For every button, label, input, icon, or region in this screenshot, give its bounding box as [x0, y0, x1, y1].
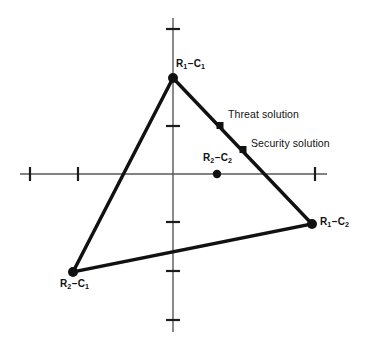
diagram-canvas: R1–C1 R1–C2 R2–C1 R2–C2 Threat solution …	[0, 0, 366, 352]
label-r1-c2: R1–C2	[320, 216, 349, 227]
label-r2-c2-c: C	[221, 152, 228, 163]
solution-markers	[213, 122, 247, 178]
vertex-dot-r1-c2	[307, 219, 317, 229]
label-security-solution: Security solution	[251, 138, 330, 150]
label-r1-c2-r-sub: 1	[327, 220, 331, 229]
label-r1-c2-c: C	[338, 216, 345, 227]
threat-solution-marker	[217, 122, 224, 129]
label-r2-c2: R2–C2	[203, 152, 232, 163]
label-r1-c1: R1–C1	[176, 58, 205, 69]
label-r1-c1-c-sub: 1	[201, 62, 205, 71]
vertex-dot-r1-c1	[168, 73, 178, 83]
point-dot-r2-c2	[213, 170, 221, 178]
vertex-dot-r2-c1	[68, 267, 78, 277]
label-r2-c2-r-sub: 2	[210, 156, 214, 165]
label-r2-c1-r-sub: 2	[67, 282, 71, 291]
label-r2-c1-c: C	[78, 278, 85, 289]
label-r2-c1: R2–C1	[60, 278, 89, 289]
label-r2-c1-c-sub: 1	[85, 282, 89, 291]
label-r1-c1-c: C	[194, 58, 201, 69]
diagram-svg	[0, 0, 366, 352]
label-threat-solution: Threat solution	[228, 109, 299, 121]
security-solution-marker	[240, 146, 247, 153]
label-r1-c2-c-sub: 2	[345, 220, 349, 229]
label-r2-c2-c-sub: 2	[228, 156, 232, 165]
label-r1-c1-r-sub: 1	[183, 62, 187, 71]
